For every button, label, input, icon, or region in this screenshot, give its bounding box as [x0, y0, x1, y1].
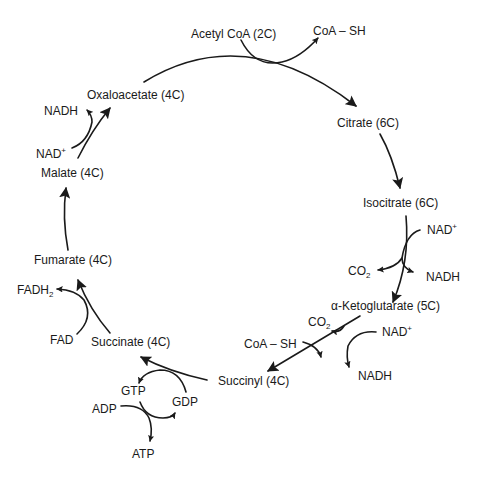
krebs-cycle-diagram: Acetyl CoA (2C) CoA – SH Oxaloacetate (4… [0, 0, 480, 483]
arrow-co2-out-isocitrate [378, 258, 402, 270]
arrow-succinate-fumarate [78, 280, 110, 333]
label-nadh-isocitrate: NADH [426, 270, 460, 284]
label-adp: ADP [92, 402, 117, 416]
label-gdp: GDP [172, 395, 198, 409]
label-alpha-ketoglutarate: α-Ketoglutarate (5C) [331, 299, 440, 313]
label-coa-sh-kg: CoA – SH [244, 337, 297, 351]
label-fad: FAD [50, 333, 73, 347]
arrow-malate-oxaloacetate [78, 108, 110, 158]
label-atp: ATP [132, 447, 154, 461]
label-citrate: Citrate (6C) [337, 116, 399, 130]
arrow-fumarate-malate [64, 188, 68, 250]
arrow-fad-fadh2 [57, 289, 88, 334]
label-coa-sh-top: CoA – SH [313, 24, 366, 38]
arrow-acetyl-coa-in [241, 38, 318, 63]
arrow-adp-atp [121, 406, 151, 441]
label-fadh2: FADH2 [17, 283, 53, 297]
cycle-arrows [0, 0, 480, 483]
label-succinate: Succinate (4C) [91, 335, 170, 349]
label-fumarate: Fumarate (4C) [34, 253, 112, 267]
arrow-succinyl-succinate [141, 357, 207, 380]
arrow-nad-in-isocitrate [402, 230, 420, 272]
label-isocitrate: Isocitrate (6C) [363, 196, 438, 210]
label-co2-isocitrate: CO2 [348, 264, 370, 278]
label-nadh-malate: NADH [44, 104, 78, 118]
label-malate: Malate (4C) [41, 166, 104, 180]
arrow-gtp-gdp [140, 402, 175, 418]
label-nad-isocitrate: NAD+ [427, 223, 457, 237]
label-nadh-kg: NADH [358, 369, 392, 383]
label-nad-malate: NAD+ [36, 147, 66, 161]
label-oxaloacetate: Oxaloacetate (4C) [87, 88, 184, 102]
label-co2-kg: CO2 [308, 315, 330, 329]
arrow-citrate-isocitrate [380, 134, 400, 188]
label-acetyl-coa: Acetyl CoA (2C) [191, 27, 276, 41]
label-succinyl: Succinyl (4C) [218, 374, 289, 388]
arrow-isocitrate-kg [393, 216, 407, 302]
label-gtp: GTP [121, 384, 146, 398]
label-nad-kg: NAD+ [382, 325, 412, 339]
arrow-nad-in-kg [347, 332, 376, 367]
